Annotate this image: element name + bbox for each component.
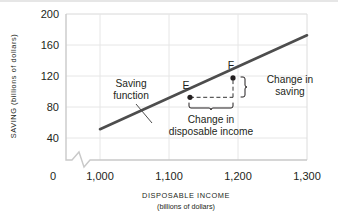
x-tick-label-0: 0 [50, 170, 56, 182]
y-tick-label-40: 40 [47, 132, 59, 144]
y-axis-title: SAVING (billions of dollars) [9, 34, 18, 138]
annotation-saving-function-line2: function [113, 90, 149, 101]
y-tick-label-80: 80 [47, 101, 59, 113]
chart-canvas: 200 160 120 80 40 0 1,000 1,100 1,200 1,… [0, 0, 338, 219]
y-tick-label-160: 160 [41, 39, 59, 51]
annotation-change-income-line1: Change in [188, 114, 234, 125]
data-point-f-label: F [228, 59, 234, 71]
annotation-change-saving-line1: Change in [267, 74, 313, 85]
x-axis-title: DISPOSABLE INCOME [142, 191, 230, 200]
x-tick-label-1200: 1,200 [224, 170, 252, 182]
y-tick-label-200: 200 [41, 8, 59, 20]
data-point-e [187, 95, 192, 100]
x-tick-label-1000: 1,000 [86, 170, 114, 182]
x-tick-label-1100: 1,100 [155, 170, 183, 182]
change-dashed-guides [190, 78, 233, 97]
annotation-change-income-line2: disposable income [169, 126, 254, 137]
data-point-e-label: E [182, 79, 189, 91]
data-point-f [230, 75, 235, 80]
annotation-saving-function-line1: Saving [115, 78, 146, 89]
x-tick-label-1300: 1,300 [293, 170, 321, 182]
annotation-change-saving-line2: saving [275, 86, 305, 97]
y-tick-label-120: 120 [41, 70, 59, 82]
x-axis-spine [66, 151, 307, 167]
saving-function-chart-figure: 200 160 120 80 40 0 1,000 1,100 1,200 1,… [0, 0, 338, 219]
x-axis-subtitle: (billions of dollars) [157, 202, 215, 211]
brace-change-in-saving [241, 77, 247, 97]
